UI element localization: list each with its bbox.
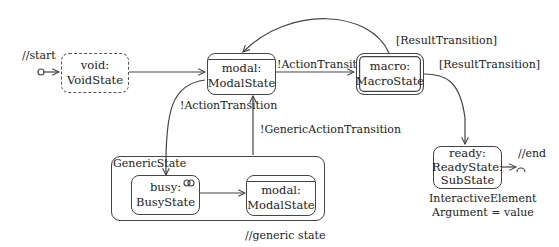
state-busy[interactable]: busy: BusyState — [131, 175, 200, 215]
generic-state-annotation: //generic state — [245, 229, 326, 243]
state-diagram: //start //end //generic state !ActionTra… — [0, 0, 559, 247]
state-ready-type: ReadyState: — [432, 161, 503, 175]
end-node — [517, 168, 525, 172]
state-modal-name: modal: — [222, 61, 262, 76]
state-macro-type: MacroState — [356, 74, 424, 89]
generic-state-label: GenericState — [113, 157, 186, 171]
state-inner-modal[interactable]: modal: ModalState — [246, 175, 316, 216]
transition-label-modal-busy: !ActionTransition — [180, 99, 277, 113]
state-ready-name: ready: — [449, 147, 486, 161]
state-void[interactable]: void: VoidState — [61, 53, 129, 93]
state-ready[interactable]: ready: ReadyState: SubState — [433, 146, 502, 189]
state-ready-subtype: SubState — [441, 174, 494, 188]
state-modal[interactable]: modal: ModalState — [207, 53, 276, 95]
state-void-name: void: — [81, 58, 109, 73]
state-inner-modal-name: modal: — [261, 183, 301, 198]
end-annotation: //end — [518, 147, 546, 161]
start-annotation: //start — [22, 49, 56, 63]
start-node — [38, 69, 44, 75]
state-void-type: VoidState — [67, 73, 123, 88]
ready-note-line2: Argument = value — [432, 206, 534, 220]
transition-label-macro-modal: [ResultTransition] — [396, 34, 497, 48]
transition-label-macro-ready: [ResultTransition] — [439, 58, 540, 72]
infinity-icon — [183, 179, 195, 187]
state-macro[interactable]: macro: MacroState — [356, 53, 424, 95]
state-modal-type: ModalState — [208, 76, 275, 91]
ready-note-line1: InteractiveElement — [429, 192, 537, 206]
state-macro-name: macro: — [370, 59, 411, 74]
state-inner-modal-type: ModalState — [247, 198, 314, 213]
state-busy-name: busy: — [150, 180, 181, 195]
transition-label-generic-modal: !GenericActionTransition — [260, 123, 401, 137]
state-busy-type: BusyState — [136, 195, 195, 210]
